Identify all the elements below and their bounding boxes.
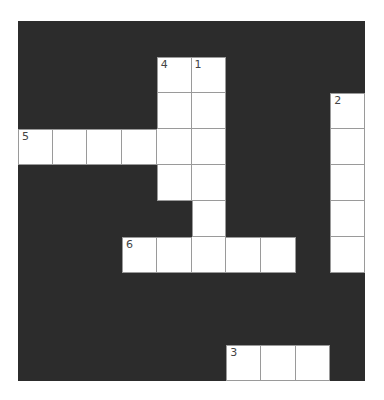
block-cell <box>122 57 157 93</box>
block-cell <box>261 57 296 93</box>
block-cell <box>53 345 88 381</box>
block-cell <box>53 165 88 201</box>
block-cell <box>53 21 88 57</box>
cell-r9-c6[interactable]: 3 <box>226 345 261 381</box>
cell-r3-c5[interactable] <box>192 129 227 165</box>
block-cell <box>18 57 53 93</box>
block-cell <box>18 237 53 273</box>
cell-r3-c1[interactable] <box>53 129 88 165</box>
block-cell <box>296 201 331 237</box>
cell-r4-c5[interactable] <box>192 165 227 201</box>
crossword-grid: 412563 <box>18 21 365 381</box>
block-cell <box>261 93 296 129</box>
cell-letter <box>53 130 87 164</box>
block-cell <box>296 129 331 165</box>
cell-letter <box>192 58 226 92</box>
block-cell <box>87 201 122 237</box>
cell-letter <box>331 129 364 164</box>
cell-letter <box>261 238 295 272</box>
block-cell <box>296 237 331 273</box>
cell-letter <box>296 346 330 380</box>
cell-r6-c5[interactable] <box>192 237 227 273</box>
cell-r9-c8[interactable] <box>296 345 331 381</box>
block-cell <box>330 21 365 57</box>
cell-letter <box>193 201 226 236</box>
block-cell <box>122 165 157 201</box>
cell-r1-c5[interactable]: 1 <box>192 57 227 93</box>
cell-letter <box>192 129 226 164</box>
block-cell <box>192 345 227 381</box>
cell-r4-c4[interactable] <box>157 165 192 201</box>
block-cell <box>226 201 261 237</box>
cell-letter <box>19 130 52 164</box>
cell-r3-c2[interactable] <box>87 129 122 165</box>
cell-r2-c5[interactable] <box>192 93 227 129</box>
block-cell <box>157 273 192 309</box>
cell-r3-c0[interactable]: 5 <box>18 129 53 165</box>
block-cell <box>226 309 261 345</box>
cell-letter <box>158 165 191 200</box>
cell-r6-c9[interactable] <box>330 237 365 273</box>
block-cell <box>296 93 331 129</box>
block-cell <box>226 165 261 201</box>
block-cell <box>296 165 331 201</box>
cell-r3-c3[interactable] <box>122 129 157 165</box>
cell-letter <box>192 237 226 272</box>
block-cell <box>18 21 53 57</box>
cell-letter <box>192 165 226 200</box>
cell-r6-c3[interactable]: 6 <box>122 237 157 273</box>
cell-letter <box>192 93 226 128</box>
cell-r5-c9[interactable] <box>330 201 365 237</box>
block-cell <box>157 201 192 237</box>
block-cell <box>122 309 157 345</box>
block-cell <box>53 57 88 93</box>
block-cell <box>157 21 192 57</box>
block-cell <box>87 237 122 273</box>
cell-r5-c5[interactable] <box>192 201 227 237</box>
block-cell <box>330 57 365 93</box>
cell-letter <box>158 58 191 92</box>
block-cell <box>330 309 365 345</box>
block-cell <box>87 57 122 93</box>
block-cell <box>18 93 53 129</box>
block-cell <box>226 21 261 57</box>
cell-r6-c7[interactable] <box>261 237 296 273</box>
cell-letter <box>331 237 364 272</box>
cell-r3-c9[interactable] <box>330 129 365 165</box>
block-cell <box>192 21 227 57</box>
block-cell <box>192 273 227 309</box>
block-cell <box>53 273 88 309</box>
block-cell <box>122 21 157 57</box>
block-cell <box>53 237 88 273</box>
block-cell <box>87 309 122 345</box>
block-cell <box>296 21 331 57</box>
cell-letter <box>331 201 364 236</box>
cell-r4-c9[interactable] <box>330 165 365 201</box>
block-cell <box>87 21 122 57</box>
cell-letter <box>331 165 364 200</box>
block-cell <box>18 309 53 345</box>
block-cell <box>18 165 53 201</box>
cell-letter <box>122 130 156 164</box>
block-cell <box>53 309 88 345</box>
cell-letter <box>261 346 295 380</box>
cell-r6-c4[interactable] <box>157 237 192 273</box>
block-cell <box>18 201 53 237</box>
block-cell <box>261 273 296 309</box>
cell-r6-c6[interactable] <box>226 237 261 273</box>
cell-r2-c4[interactable] <box>157 93 192 129</box>
cell-r2-c9[interactable]: 2 <box>330 93 365 129</box>
block-cell <box>87 93 122 129</box>
block-cell <box>261 165 296 201</box>
block-cell <box>192 309 227 345</box>
block-cell <box>87 165 122 201</box>
cell-r1-c4[interactable]: 4 <box>157 57 192 93</box>
block-cell <box>226 93 261 129</box>
block-cell <box>226 57 261 93</box>
block-cell <box>18 345 53 381</box>
cell-letter <box>227 346 260 380</box>
cell-letter <box>331 94 364 128</box>
block-cell <box>296 57 331 93</box>
cell-r3-c4[interactable] <box>157 129 192 165</box>
cell-r9-c7[interactable] <box>261 345 296 381</box>
